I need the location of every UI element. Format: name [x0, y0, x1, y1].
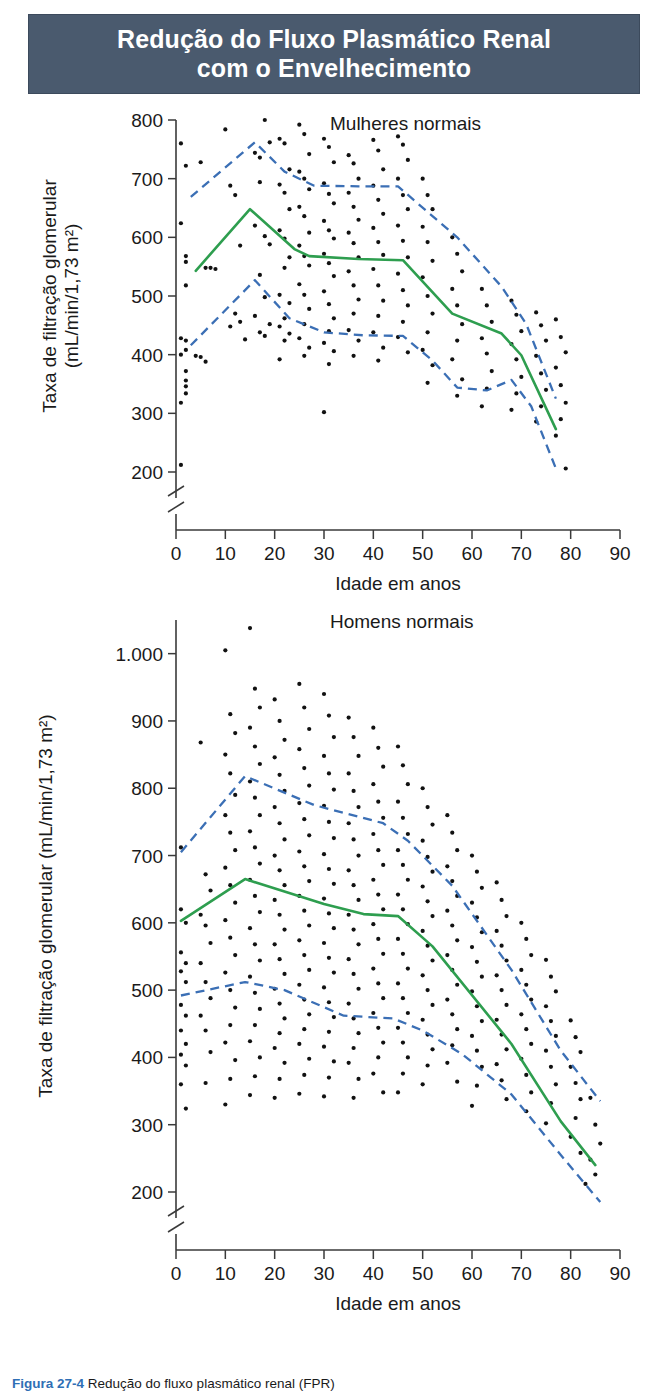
data-point	[228, 1077, 232, 1081]
data-point	[179, 336, 183, 340]
data-point	[297, 123, 301, 127]
data-point	[253, 151, 257, 155]
scatter-points-group	[179, 626, 603, 1186]
data-point	[352, 354, 356, 358]
data-point	[223, 1102, 227, 1106]
y-axis-title: Taxa de filtração glomerular(mL/min/1,73…	[39, 179, 82, 413]
data-point	[278, 719, 282, 723]
data-point	[401, 1071, 405, 1075]
data-point	[352, 161, 356, 165]
data-point	[258, 705, 262, 709]
y-axis-tick-label: 400	[131, 1047, 163, 1068]
data-point	[322, 1094, 326, 1098]
data-point	[371, 966, 375, 970]
series-annotation: Mulheres normais	[330, 113, 481, 134]
data-point	[376, 892, 380, 896]
data-point	[406, 1055, 410, 1059]
y-axis-tick-label: 200	[131, 1182, 163, 1203]
data-point	[381, 863, 385, 867]
scatter-chart-men: 2003004005006007008009001.00001020304050…	[0, 598, 668, 1358]
data-point	[430, 870, 434, 874]
data-point	[253, 1023, 257, 1027]
data-point	[322, 137, 326, 141]
data-point	[208, 941, 212, 945]
data-point	[228, 184, 232, 188]
data-point	[282, 883, 286, 887]
data-point	[253, 796, 257, 800]
data-point	[450, 879, 454, 883]
data-point	[430, 822, 434, 826]
x-axis-tick-label: 40	[363, 543, 384, 564]
data-point	[184, 283, 188, 287]
data-point	[559, 335, 563, 339]
data-point	[184, 1014, 188, 1018]
data-point	[480, 975, 484, 979]
data-point	[282, 738, 286, 742]
data-point	[559, 417, 563, 421]
data-point	[519, 329, 523, 333]
x-axis-tick-label: 60	[461, 543, 482, 564]
data-point	[282, 927, 286, 931]
data-point	[332, 316, 336, 320]
data-point	[352, 927, 356, 931]
data-point	[223, 1041, 227, 1045]
data-point	[519, 1012, 523, 1016]
data-point	[485, 351, 489, 355]
x-axis-tick-label: 20	[264, 543, 285, 564]
data-point	[356, 805, 360, 809]
data-point	[223, 866, 227, 870]
data-point	[184, 1042, 188, 1046]
data-point	[356, 754, 360, 758]
data-point	[332, 787, 336, 791]
data-point	[327, 302, 331, 306]
data-point	[356, 987, 360, 991]
data-point	[184, 1063, 188, 1067]
data-point	[258, 1055, 262, 1059]
data-point	[480, 886, 484, 890]
data-point	[297, 983, 301, 987]
data-point	[253, 744, 257, 748]
data-point	[401, 863, 405, 867]
data-point	[273, 942, 277, 946]
data-point	[455, 938, 459, 942]
data-point	[253, 942, 257, 946]
data-point	[574, 1116, 578, 1120]
data-point	[430, 207, 434, 211]
data-point	[396, 848, 400, 852]
data-point	[297, 282, 301, 286]
data-point	[455, 848, 459, 852]
data-point	[327, 956, 331, 960]
data-point	[327, 911, 331, 915]
data-point	[278, 957, 282, 961]
figure-caption-text: Redução do fluxo plasmático renal (FPR)	[88, 1376, 335, 1391]
data-point	[371, 267, 375, 271]
x-axis-tick-label: 10	[215, 543, 236, 564]
data-point	[302, 817, 306, 821]
data-point	[307, 968, 311, 972]
data-point	[401, 763, 405, 767]
data-point	[322, 289, 326, 293]
data-point	[475, 960, 479, 964]
data-point	[524, 1073, 528, 1077]
data-point	[470, 901, 474, 905]
x-axis-title: Idade em anos	[335, 1293, 461, 1314]
data-point	[593, 1172, 597, 1176]
data-point	[371, 330, 375, 334]
data-point	[258, 762, 262, 766]
data-point	[307, 783, 311, 787]
data-point	[228, 712, 232, 716]
data-point	[352, 283, 356, 287]
data-point	[287, 167, 291, 171]
data-point	[184, 921, 188, 925]
data-point	[549, 1065, 553, 1069]
data-point	[376, 981, 380, 985]
data-point	[347, 269, 351, 273]
data-point	[455, 394, 459, 398]
data-point	[243, 337, 247, 341]
figure-title-line2: com o Envelhecimento	[197, 54, 471, 82]
data-point	[258, 273, 262, 277]
data-point	[347, 231, 351, 235]
data-point	[534, 354, 538, 358]
data-point	[307, 1012, 311, 1016]
data-point	[450, 923, 454, 927]
